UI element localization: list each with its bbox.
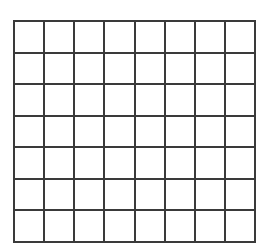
grid-cell	[166, 22, 196, 54]
grid-cell	[45, 117, 75, 149]
grid-cell	[196, 211, 226, 243]
grid-cell	[105, 180, 135, 212]
grid-cell	[15, 85, 45, 117]
grid-cell	[105, 54, 135, 86]
grid-cell	[75, 117, 105, 149]
grid-cell	[136, 180, 166, 212]
grid-cell	[226, 180, 256, 212]
grid-cell	[196, 180, 226, 212]
grid-cell	[226, 148, 256, 180]
grid-cell	[166, 85, 196, 117]
grid-cell	[75, 148, 105, 180]
grid-cell	[196, 148, 226, 180]
grid-cell	[166, 148, 196, 180]
grid-cell	[166, 211, 196, 243]
grid-cell	[196, 22, 226, 54]
grid-cell	[15, 22, 45, 54]
grid-cell	[196, 54, 226, 86]
grid-cell	[45, 85, 75, 117]
grid-cell	[226, 85, 256, 117]
grid-cell	[166, 54, 196, 86]
grid-cell	[136, 117, 166, 149]
grid-cell	[136, 211, 166, 243]
grid-cell	[15, 180, 45, 212]
grid-cell	[226, 117, 256, 149]
grid-cell	[45, 22, 75, 54]
grid-cell	[196, 117, 226, 149]
grid-cell	[75, 54, 105, 86]
grid-cell	[166, 117, 196, 149]
grid-cell	[45, 54, 75, 86]
grid-cell	[136, 22, 166, 54]
grid-cell	[226, 22, 256, 54]
grid-cell	[45, 180, 75, 212]
grid-cell	[45, 148, 75, 180]
grid-cell	[136, 54, 166, 86]
grid-cell	[136, 85, 166, 117]
grid-cell	[15, 54, 45, 86]
grid-cell	[75, 211, 105, 243]
grid-cell	[105, 117, 135, 149]
grid-cell	[75, 180, 105, 212]
grid-cell	[75, 22, 105, 54]
grid-cell	[226, 211, 256, 243]
grid-cell	[166, 180, 196, 212]
grid-cell	[105, 211, 135, 243]
grid-cell	[105, 85, 135, 117]
grid-cell	[45, 211, 75, 243]
grid-cell	[105, 22, 135, 54]
grid-cell	[196, 85, 226, 117]
grid-cell	[136, 148, 166, 180]
grid-cell	[226, 54, 256, 86]
grid-cell	[15, 211, 45, 243]
empty-grid	[13, 20, 256, 243]
grid-cell	[15, 117, 45, 149]
grid-cell	[15, 148, 45, 180]
grid-cell	[105, 148, 135, 180]
grid-cell	[75, 85, 105, 117]
